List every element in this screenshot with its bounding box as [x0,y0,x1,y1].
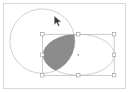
handle-middle-right[interactable] [113,53,116,56]
drawing-canvas[interactable] [3,3,126,89]
selection-center-marker [77,54,79,56]
handle-top-center[interactable] [77,33,80,36]
handle-top-left[interactable] [41,33,44,36]
handle-bottom-left[interactable] [41,74,44,77]
handle-bottom-center[interactable] [77,74,80,77]
application-window [0,0,129,92]
handle-top-right[interactable] [113,33,116,36]
handle-bottom-right[interactable] [113,74,116,77]
vector-artboard[interactable] [4,4,125,88]
handle-middle-left[interactable] [41,53,44,56]
mouse-pointer-icon [54,16,61,27]
